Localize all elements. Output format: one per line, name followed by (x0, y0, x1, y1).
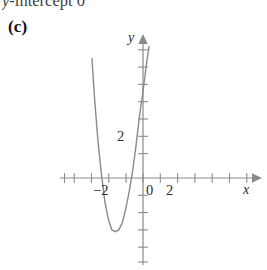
x-axis-label: x (242, 182, 250, 197)
graph-figure: y x 2 −2 0 2 (0, 0, 267, 270)
x-axis-arrowhead (252, 173, 262, 183)
y-tick-label-2: 2 (117, 128, 124, 144)
y-axis-arrowhead (138, 34, 147, 44)
x-tick-label-2: 2 (166, 182, 173, 198)
x-tick-label-0: 0 (146, 182, 153, 198)
x-tick-label-neg2: −2 (93, 182, 108, 198)
y-axis-label: y (126, 30, 135, 45)
